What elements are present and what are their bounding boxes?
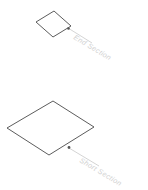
diagram-canvas: End Section Short Section [0, 0, 148, 190]
end-section-leader-dot [67, 27, 70, 30]
shape-group-short-section[interactable]: Short Section [7, 101, 124, 188]
diagram-root: End Section Short Section [0, 0, 148, 190]
end-section-label: End Section [72, 33, 113, 63]
end-section-outline[interactable] [36, 11, 71, 37]
short-section-leader-dot [68, 146, 71, 149]
short-section-label: Short Section [78, 156, 124, 188]
shape-group-end-section[interactable]: End Section [36, 11, 113, 62]
short-section-outline[interactable] [7, 101, 94, 155]
